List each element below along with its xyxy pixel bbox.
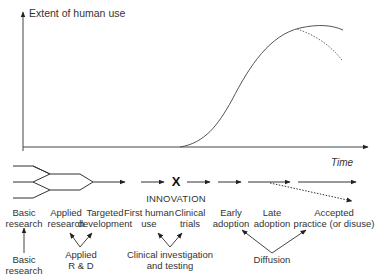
stage-late-adoption: Lateadoption [254, 207, 290, 229]
research-pipeline [13, 166, 125, 198]
group-basic-research: Basicresearch [6, 254, 43, 276]
stage-first-human-use: First humanuse [124, 207, 174, 229]
group-diffusion: Diffusion [254, 254, 291, 265]
disuse-curve [297, 29, 342, 60]
stage-early-adoption: Earlyadoption [213, 207, 249, 229]
innovation-marker: X [172, 174, 181, 189]
y-axis-label: Extent of human use [29, 7, 125, 19]
innovation-label: INNOVATION [146, 193, 206, 204]
group-applied-rd: AppliedR & D [65, 249, 97, 271]
stage-accepted-practice: Acceptedpractice (or disuse) [294, 207, 375, 229]
stage-basic-research: Basicresearch [6, 207, 43, 229]
x-axis-label: Time [331, 157, 353, 168]
adoption-curve [180, 26, 343, 147]
stage-clinical-trials: Clinicaltrials [175, 207, 206, 229]
group-clinical-investigation: Clinical investigationand testing [127, 249, 213, 271]
innovation-diagram [0, 0, 381, 279]
